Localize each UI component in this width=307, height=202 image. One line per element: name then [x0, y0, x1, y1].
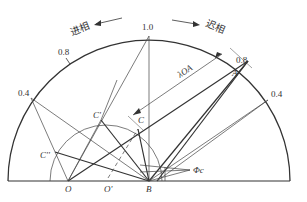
dashed-Oprime-C [108, 129, 138, 178]
arrowhead-icon [133, 108, 141, 115]
power-factor-circle-diagram: 进相 迟相 1.0 0.8 0.8 0.4 0.4 A C C' C'' O O… [0, 0, 307, 202]
point-B: B [146, 184, 152, 194]
point-C-double-prime: C'' [40, 150, 51, 160]
lagging-label: 迟相 [204, 17, 227, 36]
arrow-right-icon [193, 21, 200, 27]
phi-c-label: Φc [193, 165, 204, 175]
line-B-Cdprime [55, 152, 149, 181]
lagging-arrow [172, 20, 196, 24]
point-A: A [231, 68, 238, 78]
pf-label-left-0.4: 0.4 [18, 88, 30, 98]
line-B-A [149, 61, 248, 181]
vector-lambda-OA [133, 54, 222, 115]
arrow-left-icon [94, 20, 101, 26]
tick-left08 [66, 58, 70, 64]
line-left04-Cdprime [31, 98, 68, 181]
line-Cprime-up [101, 80, 117, 120]
point-C-prime: C' [93, 110, 102, 120]
leading-label: 进相 [68, 19, 91, 38]
pf-label-left-0.8: 0.8 [58, 47, 70, 57]
vector-lambda-OA-label: λOA [175, 62, 195, 80]
point-C: C [138, 115, 145, 125]
pf-label-right-0.8: 0.8 [236, 55, 248, 65]
inner-arc [50, 125, 162, 181]
line-B-A2 [157, 61, 248, 181]
point-O: O [65, 184, 72, 194]
point-O-prime: O' [104, 184, 113, 194]
line-O-A [68, 61, 248, 181]
pf-label-right-0.4: 0.4 [271, 89, 283, 99]
line-B-right04b [157, 100, 268, 181]
pf-label-1.0: 1.0 [142, 22, 154, 32]
